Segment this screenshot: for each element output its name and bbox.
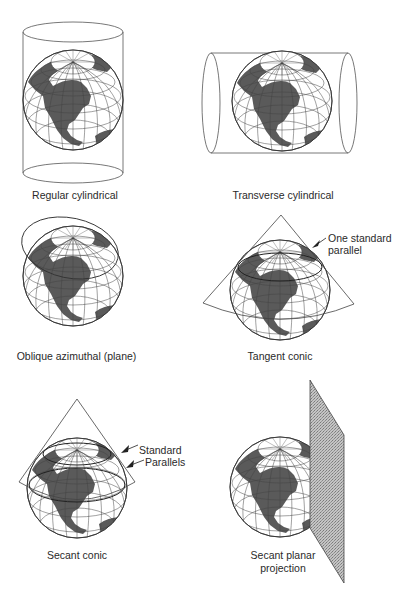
caption-regular-cylindrical: Regular cylindrical [20,189,130,202]
caption-transverse-cylindrical: Transverse cylindrical [228,189,338,202]
transverse-cylindrical-diagram [200,0,407,200]
caption-secant-planar: Secant planar projection [238,549,328,575]
caption-line-1: Secant planar [238,549,328,562]
regular-cylindrical-diagram [0,0,200,200]
globe-icon [232,51,332,157]
caption-oblique-azimuthal: Oblique azimuthal (plane) [14,350,139,363]
annotation-line-1: One standard [328,232,392,244]
caption-tangent-conic: Tangent conic [235,350,325,363]
annotation-line-2: Parallels [139,456,185,468]
annotation-standard-parallels: Standard Parallels [139,444,185,468]
globe-icon [27,438,127,544]
caption-line-2: projection [238,562,328,575]
arrow-icon [121,445,138,453]
annotation-line-2: parallel [328,244,392,256]
arrow-icon [312,238,326,248]
oblique-azimuthal-diagram [0,210,200,410]
secant-conic-diagram [0,405,200,594]
annotation-one-standard-parallel: One standard parallel [328,232,392,256]
annotation-line-1: Standard [139,444,185,456]
caption-secant-conic: Secant conic [42,549,112,562]
globe-icon [23,50,123,156]
